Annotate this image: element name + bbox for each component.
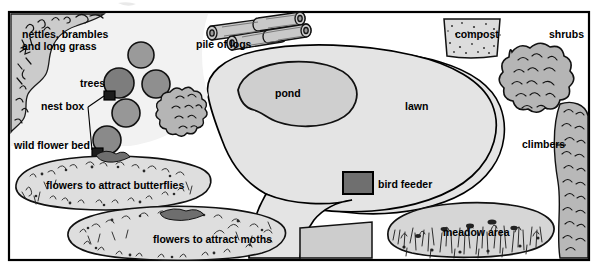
label-compost: compost — [455, 28, 499, 40]
label-pile-of-logs: pile of logs — [196, 38, 252, 50]
garden-plan-diagram: nettles, brambles and long grass pile of… — [0, 0, 600, 272]
climber-strip — [555, 103, 589, 259]
label-wild-flower-bed: wild flower bed — [13, 139, 90, 151]
label-trees: trees — [80, 77, 105, 89]
label-shrubs: shrubs — [549, 28, 584, 40]
nest-box-a — [104, 91, 115, 100]
tree-canopy — [128, 42, 154, 68]
label-nest-box: nest box — [41, 100, 84, 112]
label-lawn: lawn — [405, 100, 428, 112]
bird-feeder-marker — [343, 172, 373, 194]
label-climbers: climbers — [522, 138, 565, 150]
label-nettles: nettles, brambles — [22, 28, 109, 40]
patio-shape — [300, 222, 372, 258]
label-nettles-line2: and long grass — [22, 40, 97, 52]
garden-plan-svg: nettles, brambles and long grass pile of… — [0, 0, 600, 272]
label-butterflies: flowers to attract butterflies — [46, 179, 184, 191]
label-moths: flowers to attract moths — [153, 233, 272, 245]
tree-canopy — [112, 99, 140, 127]
label-pond: pond — [275, 87, 301, 99]
label-meadow-area: meadow area — [443, 226, 510, 238]
label-bird-feeder: bird feeder — [378, 178, 432, 190]
